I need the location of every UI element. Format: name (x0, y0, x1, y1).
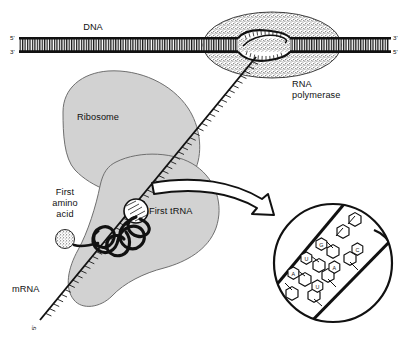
inset-base-letter-0: U (304, 256, 308, 262)
rna-polymerase: RNA polymerase (203, 12, 341, 100)
inset-base-letter-4: C (355, 247, 359, 253)
dna-left-top-prime-label: 5' (10, 34, 15, 41)
first-amino-acid-label-line2: amino (52, 198, 78, 208)
rna-polymerase-label-line1: RNA (292, 79, 312, 89)
dna-label: DNA (83, 22, 103, 32)
first-trna-label: First tRNA (149, 206, 193, 216)
transcription-translation-figure: 5' 3' 3' 5' DNA (0, 0, 409, 339)
first-amino-acid-label-line3: acid (56, 209, 73, 219)
dna-left-bottom-prime-label: 3' (10, 48, 15, 55)
mrna-label: mRNA (12, 284, 40, 294)
codon-inset: U G A (268, 197, 395, 330)
first-amino-acid-label-line1: First (56, 187, 75, 197)
dna-right-bottom-prime-label: 5' (393, 48, 398, 55)
first-amino-acid: First amino acid (52, 187, 78, 249)
rna-polymerase-label-line2: polymerase (292, 90, 341, 100)
inset-base-letter-3: A (333, 265, 337, 271)
inset-base-letter-2: A (292, 271, 296, 277)
figure-canvas: 5' 3' 3' 5' DNA (0, 0, 409, 339)
dna-right-top-prime-label: 3' (393, 34, 398, 41)
ribosome-label: Ribosome (77, 112, 119, 122)
first-amino-acid-circle (56, 230, 75, 249)
inset-base-letter-1: G (319, 242, 323, 248)
mrna-5prime-label: 5' (30, 325, 37, 330)
inset-base-letter-5: U (315, 284, 319, 290)
